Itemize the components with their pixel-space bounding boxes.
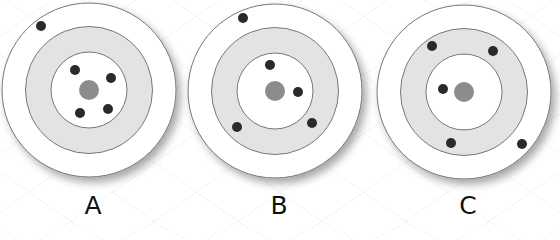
hit-dot (106, 73, 116, 83)
hit-dot (517, 139, 527, 149)
bullseye (265, 81, 285, 101)
target-c (377, 5, 551, 179)
target-b (188, 4, 362, 178)
hit-dot (36, 21, 46, 31)
hit-dot (103, 104, 113, 114)
hit-dot (293, 87, 303, 97)
hit-dot (75, 108, 85, 118)
hit-dot (232, 122, 242, 132)
hit-dot (438, 84, 448, 94)
hit-dot (446, 138, 456, 148)
bullseye (79, 80, 99, 100)
hit-dot (70, 65, 80, 75)
targets-figure: A B C (0, 0, 560, 231)
target-a-label: A (63, 193, 123, 218)
hit-dot (238, 13, 248, 23)
target-a (2, 3, 176, 177)
bullseye (454, 82, 474, 102)
hit-dot (265, 60, 275, 70)
hit-dot (427, 41, 437, 51)
hit-dot (307, 118, 317, 128)
target-b-label: B (249, 193, 309, 218)
hit-dot (488, 46, 498, 56)
target-c-label: C (438, 193, 498, 218)
